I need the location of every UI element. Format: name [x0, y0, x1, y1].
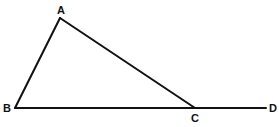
- triangle-diagram: A B C D: [0, 0, 279, 127]
- vertex-label-c: C: [191, 112, 199, 124]
- segment-ab: [15, 18, 60, 108]
- vertex-label-a: A: [57, 4, 65, 16]
- vertex-label-b: B: [3, 102, 11, 114]
- segment-ac: [60, 18, 195, 108]
- point-label-d: D: [269, 102, 277, 114]
